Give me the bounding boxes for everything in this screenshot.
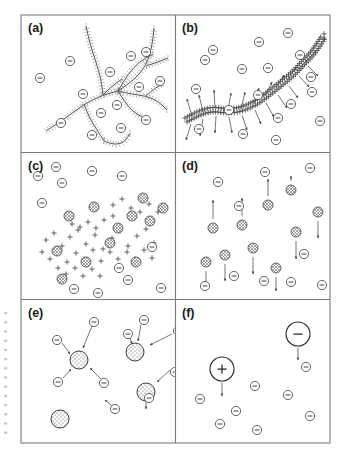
negative-ion: [156, 283, 165, 292]
colloid-outline: [70, 351, 88, 369]
negative-ion: [112, 100, 121, 109]
negative-ion: [283, 390, 292, 399]
negative-ion: [237, 64, 246, 73]
complex-outline: [248, 243, 258, 253]
complex-outline: [291, 227, 301, 237]
negative-ion: [305, 163, 314, 172]
negative-ion: [78, 89, 87, 98]
complex-outline: [271, 263, 281, 273]
negative-ion: [123, 275, 132, 284]
negative-ion: [89, 317, 98, 326]
complex-particle: [313, 207, 323, 217]
figure-canvas: (a)(b)(c)(d)(e)(f): [0, 0, 350, 457]
negative-ion: [51, 162, 60, 171]
negative-ion: [283, 28, 292, 37]
negative-ion: [307, 87, 316, 96]
margin-artifact: [4, 376, 7, 378]
complex-outline: [52, 246, 62, 256]
panel-label-a: (a): [28, 21, 43, 35]
complex-particle: [237, 220, 247, 230]
negative-ion: [87, 166, 96, 175]
negative-ion: [250, 381, 259, 390]
complex-particle: [113, 223, 123, 233]
margin-artifact: [4, 422, 7, 424]
negative-ion: [238, 129, 247, 138]
negative-ion: [317, 280, 326, 289]
negative-ion: [99, 378, 108, 387]
margin-artifact: [4, 367, 7, 369]
margin-artifact: [4, 321, 7, 323]
negative-ion: [37, 198, 46, 207]
negative-ion: [141, 47, 150, 56]
margin-artifact: [4, 386, 7, 388]
negative-ion: [134, 82, 143, 91]
margin-artifact: [4, 413, 7, 415]
negative-ion: [191, 84, 200, 93]
margin-artifact: [4, 358, 7, 360]
negative-ion: [213, 177, 222, 186]
negative-ion: [147, 242, 156, 251]
negative-ion: [123, 329, 132, 338]
negative-ion: [141, 115, 150, 124]
negative-ion: [110, 404, 119, 413]
negative-ion: [259, 276, 268, 285]
complex-particle: [81, 257, 91, 267]
negative-ion: [315, 116, 324, 125]
complex-outline: [313, 207, 323, 217]
negative-ion: [53, 377, 62, 386]
negative-ion: [306, 72, 315, 81]
panel-label-b: (b): [182, 21, 198, 35]
complex-particle: [138, 193, 148, 203]
negative-ion: [93, 288, 102, 297]
panel-label-d: (d): [182, 159, 198, 173]
negative-ion: [126, 51, 135, 60]
complex-outline: [145, 216, 155, 226]
complex-outline: [208, 223, 218, 233]
negative-ion: [116, 123, 125, 132]
complex-particle: [131, 257, 141, 267]
complex-outline: [113, 223, 123, 233]
complex-particle: [158, 203, 168, 213]
complex-outline: [89, 202, 99, 212]
complex-outline: [131, 257, 141, 267]
negative-ion: [286, 277, 295, 286]
negative-ion: [65, 56, 74, 65]
colloid-particle: [126, 343, 144, 361]
negative-ion: [114, 263, 123, 272]
negative-ion: [286, 99, 295, 108]
macroion-negative: [286, 322, 310, 346]
complex-particle: [89, 202, 99, 212]
negative-ion: [194, 124, 203, 133]
negative-ion: [155, 76, 164, 85]
panel-label-c: (c): [28, 159, 43, 173]
complex-outline: [263, 200, 273, 210]
panel-label-e: (e): [28, 306, 43, 320]
margin-artifact: [4, 340, 7, 342]
negative-ion: [273, 113, 282, 122]
complex-particle: [263, 200, 273, 210]
negative-ion: [105, 67, 114, 76]
complex-particle: [208, 223, 218, 233]
negative-ion: [252, 425, 261, 434]
negative-ion: [299, 249, 308, 258]
complex-outline: [220, 250, 230, 260]
negative-ion: [254, 37, 263, 46]
margin-artifact: [4, 330, 7, 332]
figure-container: (a)(b)(c)(d)(e)(f): [0, 0, 350, 457]
negative-ion: [69, 284, 78, 293]
negative-ion: [87, 130, 96, 139]
negative-ion: [117, 171, 126, 180]
negative-ion: [253, 90, 262, 99]
complex-outline: [127, 211, 137, 221]
negative-ion: [231, 406, 240, 415]
complex-particle: [220, 250, 230, 260]
negative-ion: [57, 178, 66, 187]
complex-particle: [64, 211, 74, 221]
complex-particle: [286, 185, 296, 195]
negative-ion: [56, 118, 65, 127]
complex-outline: [237, 220, 247, 230]
negative-ion: [229, 271, 238, 280]
negative-ion: [52, 335, 61, 344]
complex-particle: [271, 263, 281, 273]
colloid-outline: [51, 410, 69, 428]
